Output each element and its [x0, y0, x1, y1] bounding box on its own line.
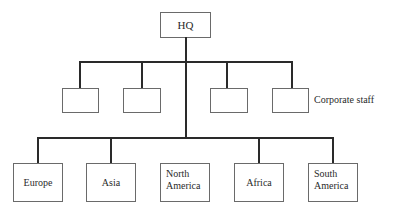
staff-box-1: [62, 88, 99, 113]
staff-drop-1: [79, 61, 81, 88]
region-box-north-america: North America: [160, 163, 210, 202]
region-box-asia: Asia: [86, 163, 136, 202]
region-box-africa: Africa: [234, 163, 284, 202]
region-drop-5: [332, 137, 334, 163]
region-connector-line: [37, 137, 334, 139]
region-drop-2: [110, 137, 112, 163]
corporate-staff-label: Corporate staff: [314, 94, 374, 105]
region-box-europe: Europe: [13, 163, 63, 202]
region-drop-4: [258, 137, 260, 163]
trunk-line: [185, 37, 187, 138]
staff-drop-3: [226, 61, 228, 88]
staff-connector-line: [79, 61, 293, 63]
staff-drop-2: [141, 61, 143, 88]
staff-box-2: [123, 88, 161, 113]
staff-box-3: [210, 88, 248, 113]
staff-box-4: [272, 88, 309, 113]
region-box-south-america: South America: [308, 163, 358, 202]
region-drop-1: [37, 137, 39, 163]
staff-drop-4: [291, 61, 293, 88]
hq-box: HQ: [160, 12, 211, 38]
